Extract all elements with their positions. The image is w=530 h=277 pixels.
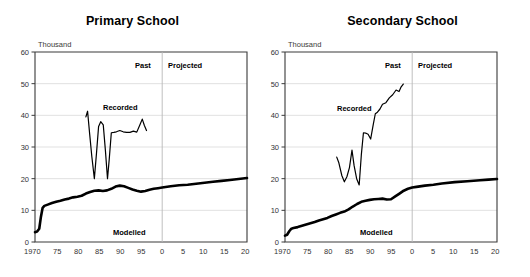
series-modelled-primary [35, 178, 247, 232]
y-tick-label-40-secondary: 40 [262, 111, 279, 120]
y-tick-label-0-secondary: 0 [262, 238, 279, 247]
y-tick-label-50-secondary: 50 [262, 80, 279, 89]
x-tick-label-5-secondary: 5 [431, 247, 435, 256]
y-tick-label-50-primary: 50 [12, 80, 29, 89]
annotation-modelled-secondary: Modelled [360, 228, 393, 237]
x-tick-label-20-secondary: 20 [491, 247, 499, 256]
x-tick-label-90-primary: 90 [116, 247, 124, 256]
x-tick-label-80-primary: 80 [74, 247, 82, 256]
y-tick-label-40-primary: 40 [12, 111, 29, 120]
y-tick-label-30-primary: 30 [12, 143, 29, 152]
x-tick-label-20-primary: 20 [241, 247, 249, 256]
x-tick-label-1970-secondary: 1970 [274, 247, 291, 256]
annotation-recorded-primary: Recorded [103, 103, 138, 112]
y-tick-label-20-secondary: 20 [262, 175, 279, 184]
x-tick-label-5-primary: 5 [181, 247, 185, 256]
charts-container: Primary School Thousand [0, 0, 530, 277]
annotation-recorded-secondary: Recorded [337, 104, 372, 113]
x-tick-label-95-primary: 95 [137, 247, 145, 256]
x-tick-label-90-secondary: 90 [366, 247, 374, 256]
chart-panel-primary-school: Primary School Thousand [0, 0, 265, 277]
x-tick-label-1970-primary: 1970 [24, 247, 41, 256]
y-tick-label-10-primary: 10 [12, 206, 29, 215]
annotation-past-primary: Past [135, 61, 151, 70]
annotation-modelled-primary: Modelled [113, 228, 146, 237]
annotation-projected-secondary: Projected [418, 61, 452, 70]
y-tick-label-0-primary: 0 [12, 238, 29, 247]
y-tick-label-60-primary: 60 [12, 48, 29, 57]
x-tick-label-95-secondary: 95 [387, 247, 395, 256]
annotation-past-secondary: Past [385, 61, 401, 70]
x-tick-label-75-secondary: 75 [303, 247, 311, 256]
plot-secondary [265, 0, 530, 277]
x-tick-label-15-primary: 15 [220, 247, 228, 256]
x-tick-label-75-primary: 75 [53, 247, 61, 256]
y-tick-label-60-secondary: 60 [262, 48, 279, 57]
x-tick-label-0-secondary: 0 [410, 247, 414, 256]
chart-panel-secondary-school: Secondary School Thousand [265, 0, 530, 277]
annotation-projected-primary: Projected [168, 61, 202, 70]
gridlines-secondary [285, 84, 497, 211]
series-recorded-primary [86, 111, 147, 178]
x-tick-label-85-primary: 85 [95, 247, 103, 256]
x-tick-label-0-primary: 0 [160, 247, 164, 256]
x-tick-label-15-secondary: 15 [470, 247, 478, 256]
x-tick-label-10-primary: 10 [199, 247, 207, 256]
series-recorded-secondary [337, 84, 404, 185]
y-tick-label-20-primary: 20 [12, 175, 29, 184]
x-tick-label-80-secondary: 80 [324, 247, 332, 256]
x-tick-label-85-secondary: 85 [345, 247, 353, 256]
y-tick-label-30-secondary: 30 [262, 143, 279, 152]
y-tick-label-10-secondary: 10 [262, 206, 279, 215]
x-tick-label-10-secondary: 10 [449, 247, 457, 256]
